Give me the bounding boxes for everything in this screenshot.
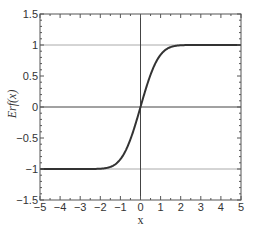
y-tick-label: 1.5 [23,8,38,20]
y-tick-labels: −1.5−1−0.500.511.5 [16,8,38,206]
x-tick-label: −3 [74,201,87,213]
y-tick-label: 1 [32,39,38,51]
y-tick-label: 0 [32,101,38,113]
erf-chart: −5−4−3−2−1012345 −1.5−1−0.500.511.5 x Er… [0,0,253,232]
y-axis-label: Erf(x) [5,90,19,120]
y-tick-label: 0.5 [23,70,38,82]
x-tick-label: −1 [114,201,127,213]
x-tick-label: 0 [137,201,143,213]
x-tick-label: −2 [94,201,107,213]
y-tick-label: −0.5 [16,132,38,144]
x-axis-label: x [138,213,144,227]
x-tick-label: 3 [198,201,204,213]
x-tick-label: −4 [54,201,67,213]
x-tick-labels: −5−4−3−2−1012345 [34,201,244,213]
y-tick-label: −1.5 [16,194,38,206]
x-tick-label: 2 [178,201,184,213]
y-tick-label: −1 [25,163,38,175]
x-tick-label: 5 [238,201,244,213]
x-tick-label: 4 [218,201,224,213]
x-tick-label: 1 [158,201,164,213]
